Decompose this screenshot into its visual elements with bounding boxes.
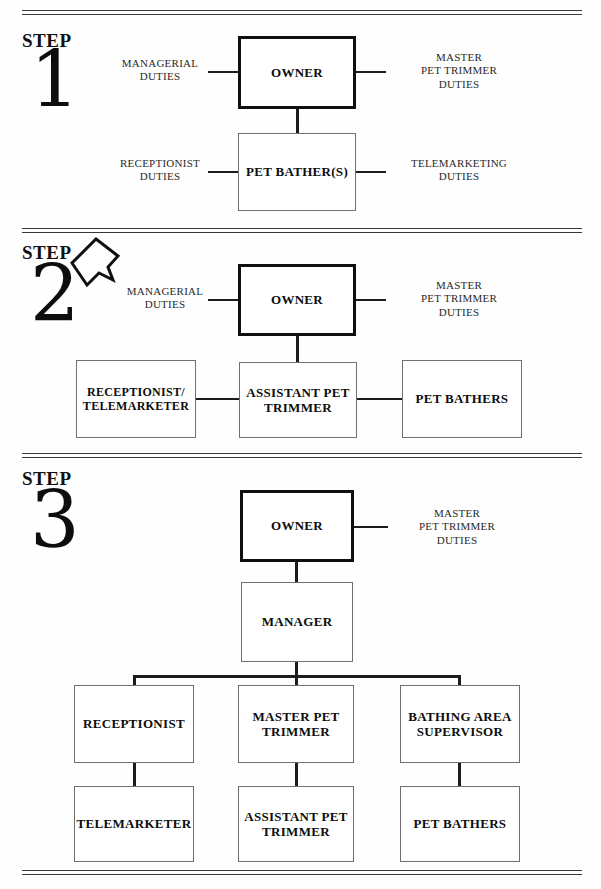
step-3-box-owner[interactable]: OWNER xyxy=(240,490,354,562)
step-3-box-manager[interactable]: MANAGER xyxy=(241,582,353,662)
step-3-box-assistant-pet-trimmer-label: ASSISTANT PET TRIMMER xyxy=(239,809,353,840)
step-3-connector-owner-right xyxy=(354,526,388,528)
step-3-connector-master-to-assistant xyxy=(295,763,298,786)
step-3-box-master-pet-trimmer[interactable]: MASTER PET TRIMMER xyxy=(238,685,354,763)
step-3-box-pet-bathers-label: PET BATHERS xyxy=(411,816,510,831)
step-3-number: 3 xyxy=(30,488,80,554)
step-3-connector-supervisor-to-bathers xyxy=(458,763,461,786)
step-3-caption-master-pet-trimmer-duties: MASTER PET TRIMMER DUTIES xyxy=(396,507,518,547)
step-3-box-owner-label: OWNER xyxy=(268,518,326,533)
step-3-box-manager-label: MANAGER xyxy=(259,614,336,629)
step-3-box-receptionist-label: RECEPTIONIST xyxy=(80,716,188,731)
step-3-box-telemarketer[interactable]: TELEMARKETER xyxy=(74,786,194,862)
step-3-box-telemarketer-label: TELEMARKETER xyxy=(74,816,195,831)
step-3-box-assistant-pet-trimmer[interactable]: ASSISTANT PET TRIMMER xyxy=(238,786,354,862)
step-3-box-master-pet-trimmer-label: MASTER PET TRIMMER xyxy=(239,709,353,740)
step-3-connector-owner-to-manager xyxy=(295,562,298,582)
divider-bottom xyxy=(22,870,582,875)
divider-step2-step3 xyxy=(22,453,582,458)
step-3-section: STEP 3 OWNER MASTER PET TRIMMER DUTIES M… xyxy=(0,0,601,420)
step-3-box-pet-bathers[interactable]: PET BATHERS xyxy=(400,786,520,862)
step-3-connector-receptionist-to-telemarketer xyxy=(133,763,136,786)
step-3-box-receptionist[interactable]: RECEPTIONIST xyxy=(74,685,194,763)
step-3-box-bathing-area-supervisor-label: BATHING AREA SUPERVISOR xyxy=(401,709,519,740)
page-canvas: STEP 1 OWNER MANAGERIAL DUTIES MASTER PE… xyxy=(0,0,601,889)
step-3-box-bathing-area-supervisor[interactable]: BATHING AREA SUPERVISOR xyxy=(400,685,520,763)
